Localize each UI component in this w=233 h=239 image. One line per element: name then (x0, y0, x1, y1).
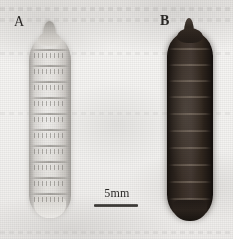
specimen-a-segment-line (30, 113, 70, 115)
specimen-a-segment-line (30, 177, 70, 179)
specimen-b-segment-line (168, 198, 212, 200)
specimen-b-segment-line (168, 147, 212, 149)
specimen-a-segment-line (30, 161, 70, 163)
specimen-a-segment-line (30, 81, 70, 83)
specimen-a-spine-row (34, 181, 66, 186)
specimen-a-spine-row (34, 133, 66, 138)
panel-label-a: A (14, 15, 24, 29)
specimen-a-segment-line (30, 145, 70, 147)
specimen-b-segment-line (168, 48, 212, 50)
specimen-b-segment-line (168, 130, 212, 132)
specimen-b-segment-line (168, 113, 212, 115)
specimen-b-segment-line (168, 181, 212, 183)
scale-bar-rule (94, 204, 138, 207)
specimen-a-segment-line (30, 193, 70, 195)
specimen-b-segment-line (168, 64, 212, 66)
scan-bleedthrough-artifact (0, 231, 233, 234)
specimen-a-segment-line (30, 129, 70, 131)
scale-bar: 5mm (94, 186, 140, 207)
specimen-a-spine-row (34, 165, 66, 170)
specimen-b-segment-line (168, 96, 212, 98)
specimen-a-anterior-segment (38, 32, 61, 46)
specimen-b-anterior-segment (177, 28, 203, 43)
specimen-b-segment-line (168, 80, 212, 82)
specimen-a-segment-line (30, 97, 70, 99)
specimen-a-spine-row (34, 85, 66, 90)
specimen-b-body (167, 32, 213, 219)
figure-plate: A B (0, 0, 233, 239)
specimen-a-spine-row (34, 101, 66, 106)
specimen-a-spine-row (34, 197, 66, 202)
scale-bar-label: 5mm (94, 186, 140, 200)
specimen-a-body (29, 35, 71, 217)
scan-bleedthrough-artifact (0, 7, 233, 11)
specimen-pale-larva (27, 21, 73, 217)
specimen-a-spine-row (34, 117, 66, 122)
specimen-b-posterior-end (173, 199, 207, 221)
specimen-a-segment-line (30, 65, 70, 67)
specimen-a-spine-row (34, 149, 66, 154)
specimen-a-segment-line (30, 49, 70, 51)
specimen-dark-puparium (165, 18, 215, 220)
specimen-a-spine-row (34, 69, 66, 74)
specimen-b-segment-line (168, 164, 212, 166)
specimen-a-spine-row (34, 53, 66, 58)
